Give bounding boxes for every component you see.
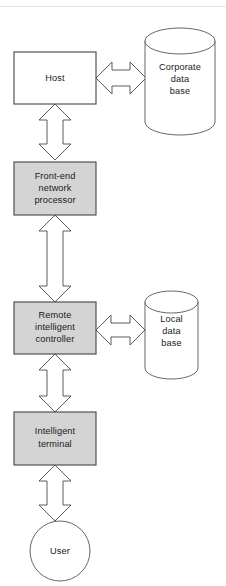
connector-host-to-corporate-database [96, 62, 146, 94]
network-hierarchy-diagram: Host Corporate data base Front-end netwo… [0, 0, 226, 586]
double-headed-block-arrow-icon [39, 465, 71, 521]
local-database-cylinder-top [145, 291, 198, 313]
front-end-network-processor-label-line-3: processor [34, 195, 75, 205]
local-database-label-line-3: base [161, 338, 181, 348]
local-database-label-line-1: Local [160, 314, 182, 324]
connector-front-end-network-processor-to-remote-intelligent-controller [39, 215, 71, 302]
node-corporate-database[interactable]: Corporate data base [145, 28, 215, 135]
diagram-canvas: Host Corporate data base Front-end netwo… [0, 0, 226, 586]
double-headed-block-arrow-icon [39, 354, 71, 412]
intelligent-terminal-label-line-1: Intelligent [35, 426, 76, 436]
node-intelligent-terminal[interactable]: Intelligent terminal [14, 412, 96, 465]
remote-intelligent-controller-label-line-3: controller [36, 334, 75, 344]
node-host[interactable]: Host [14, 52, 96, 104]
connector-remote-intelligent-controller-to-intelligent-terminal [39, 354, 71, 412]
remote-intelligent-controller-label-line-2: intelligent [35, 322, 75, 332]
host-label: Host [45, 73, 65, 83]
double-headed-block-arrow-icon [96, 315, 145, 345]
connector-remote-intelligent-controller-to-local-database [96, 315, 145, 345]
front-end-network-processor-label-line-1: Front-end [35, 171, 76, 181]
intelligent-terminal-label-line-2: terminal [38, 439, 71, 449]
connector-host-to-front-end-network-processor [39, 104, 71, 160]
corporate-database-label-line-2: data [171, 74, 190, 84]
double-headed-block-arrow-icon [96, 62, 146, 94]
node-remote-intelligent-controller[interactable]: Remote intelligent controller [14, 302, 96, 354]
user-label: User [50, 546, 70, 556]
double-headed-block-arrow-icon [39, 104, 71, 160]
node-local-database[interactable]: Local data base [145, 291, 198, 379]
corporate-database-label-line-1: Corporate [159, 62, 201, 72]
remote-intelligent-controller-label-line-1: Remote [39, 310, 72, 320]
front-end-network-processor-label-line-2: network [39, 183, 72, 193]
node-front-end-network-processor[interactable]: Front-end network processor [14, 162, 96, 215]
local-database-label-line-2: data [162, 326, 181, 336]
corporate-database-cylinder-top [145, 28, 215, 54]
node-user[interactable]: User [30, 521, 90, 581]
corporate-database-label-line-3: base [170, 86, 190, 96]
double-headed-block-arrow-icon [39, 215, 71, 302]
connector-intelligent-terminal-to-user [39, 465, 71, 521]
